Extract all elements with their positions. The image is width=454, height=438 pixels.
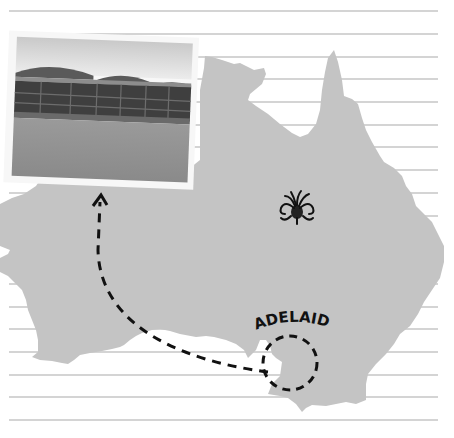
australia-map-infographic: ADELAIDE bbox=[0, 0, 454, 438]
stadium-photo bbox=[3, 30, 199, 189]
